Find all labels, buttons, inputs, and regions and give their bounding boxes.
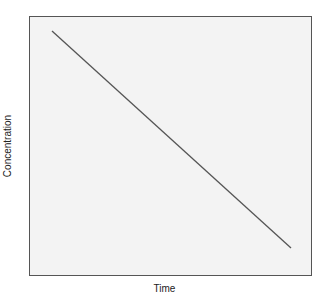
y-axis-label: Concentration: [2, 115, 13, 177]
x-axis-label: Time: [0, 283, 329, 294]
data-line: [0, 0, 329, 299]
